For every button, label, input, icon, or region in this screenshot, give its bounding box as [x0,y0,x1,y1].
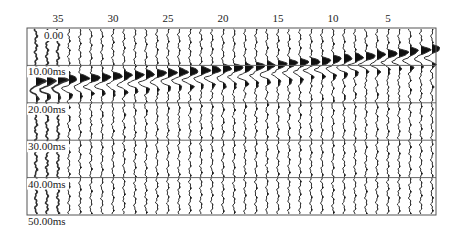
trace-label: 5 [385,12,391,24]
trace-fill [135,29,144,214]
trace-label: 30 [108,12,120,24]
trace-12 [303,29,320,214]
trace-33 [74,29,89,214]
time-label: 40.00ms [28,178,66,190]
trace-fill [311,29,320,214]
trace-19 [227,29,243,214]
time-label: 20.00ms [28,103,66,115]
trace-fill [102,29,111,214]
trace-24 [172,29,189,214]
trace-fill [278,29,287,214]
seismic-gather-plot: 3530252015105 0.0010.00ms20.00ms30.00ms4… [0,0,463,240]
trace-fill [113,29,122,214]
trace-fill [245,29,254,214]
trace-label: 15 [273,12,285,24]
trace-label: 10 [328,12,340,24]
trace-fill [300,29,309,214]
trace-3 [403,29,419,214]
trace-2 [415,29,432,214]
trace-wiggles [30,29,439,214]
time-label: 10.00ms [28,65,66,77]
trace-label: 35 [53,12,65,24]
trace-4 [392,29,409,214]
trace-29 [117,29,133,214]
trace-16 [260,29,275,214]
trace-22 [194,29,211,214]
trace-fill [289,29,298,214]
trace-fill [91,29,100,214]
trace-31 [95,29,111,214]
trace-number-labels: 3530252015105 [53,12,392,24]
trace-18 [237,29,253,214]
trace-20 [217,29,232,214]
time-label: 0.00 [44,29,64,41]
trace-26 [150,29,166,214]
trace-fill [168,29,177,214]
trace-label: 20 [218,12,230,24]
trace-21 [204,29,221,214]
trace-28 [128,29,145,214]
trace-32 [83,29,100,214]
trace-15 [272,29,288,214]
trace-fill [201,29,211,214]
trace-label: 25 [163,12,175,24]
trace-11 [314,29,331,214]
trace-30 [107,29,123,214]
trace-fill [179,29,189,214]
time-label: 50.00ms [28,215,66,227]
trace-fill [80,29,90,214]
trace-13 [293,29,309,214]
trace-1 [424,29,440,214]
trace-fill [124,29,133,214]
trace-17 [250,29,265,214]
trace-23 [182,29,198,214]
time-label: 30.00ms [28,140,66,152]
trace-14 [282,29,297,214]
trace-fill [366,29,375,214]
trace-25 [161,29,177,214]
time-gridlines [27,65,436,177]
